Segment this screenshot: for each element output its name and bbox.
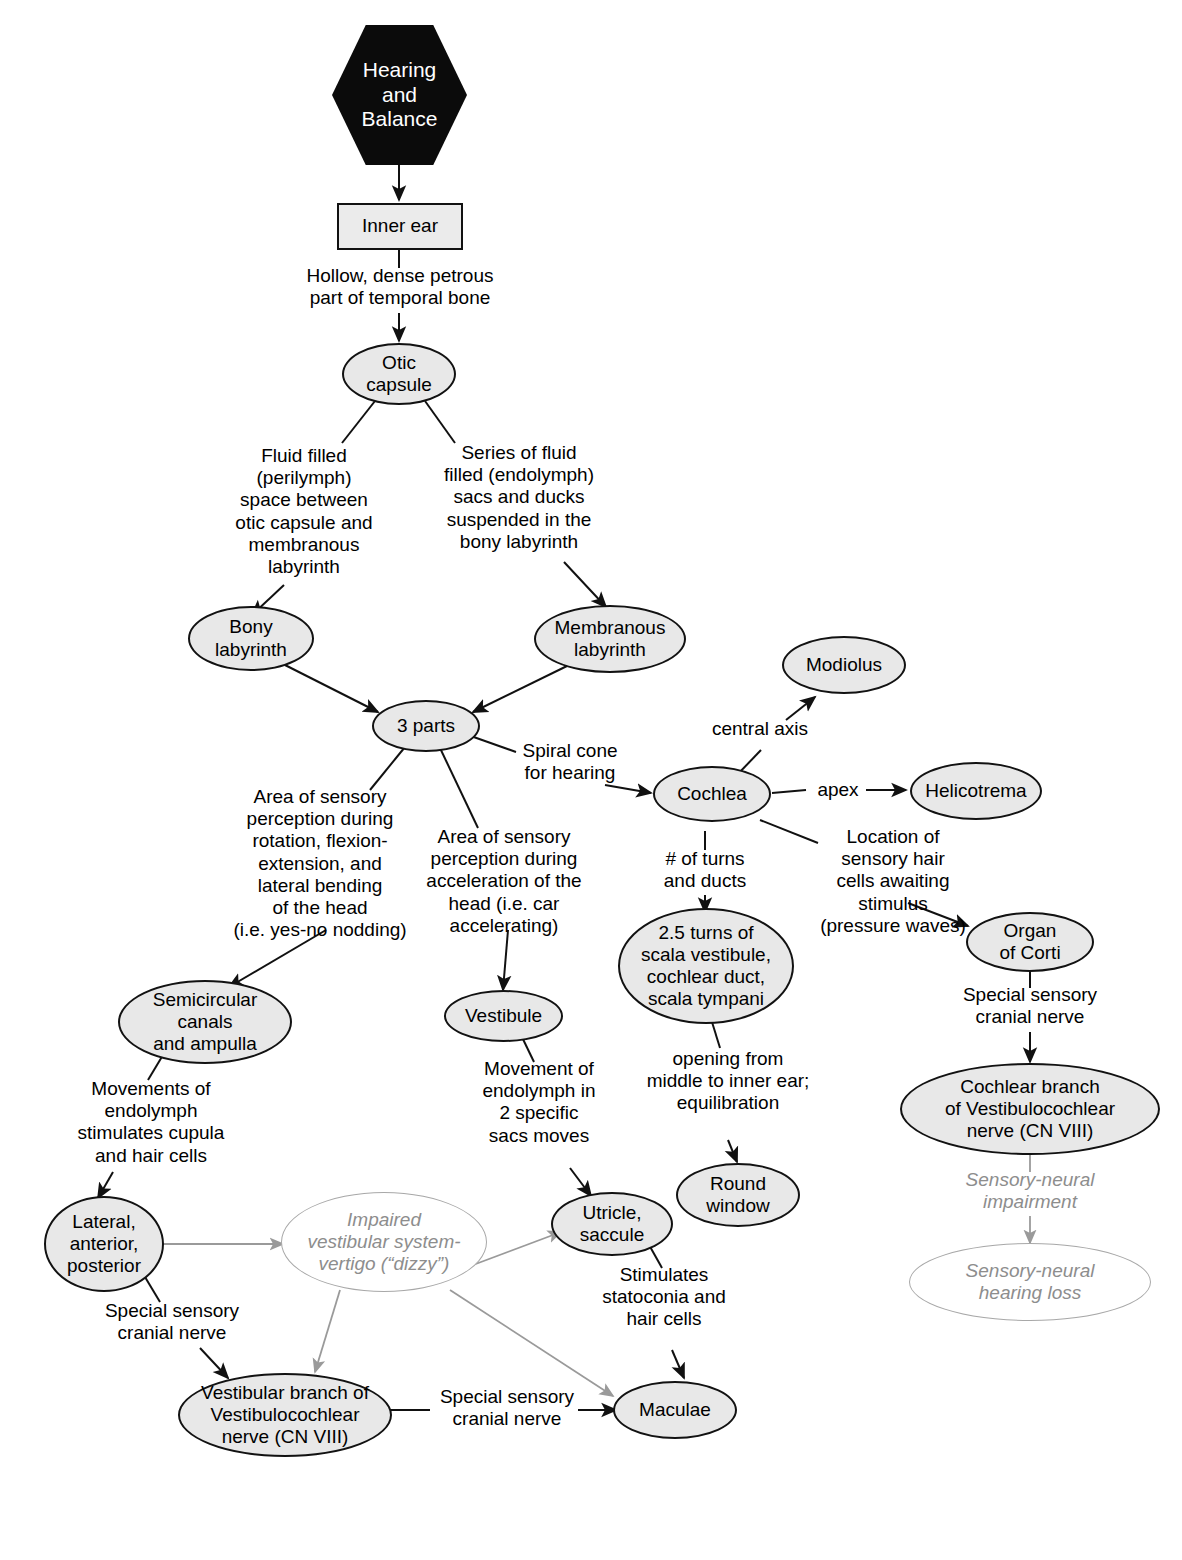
node-label: Bony labyrinth bbox=[190, 616, 312, 660]
node-lateral-anterior-posterior[interactable]: Lateral, anterior, posterior bbox=[44, 1196, 164, 1292]
node-3-parts[interactable]: 3 parts bbox=[372, 700, 480, 752]
edge-label-special-sensory-maculae: Special sensory cranial nerve bbox=[424, 1386, 590, 1430]
edge-label-opening-middle: opening from middle to inner ear; equili… bbox=[628, 1048, 828, 1115]
edge-label-central-axis: central axis bbox=[700, 718, 820, 740]
edge-label-movement-endolymph: Movement of endolymph in 2 specific sacs… bbox=[464, 1058, 614, 1147]
node-cochlea[interactable]: Cochlea bbox=[653, 766, 771, 822]
node-label: Modiolus bbox=[784, 654, 904, 676]
node-helicotrema[interactable]: Helicotrema bbox=[910, 762, 1042, 820]
node-inner-ear[interactable]: Inner ear bbox=[337, 203, 463, 250]
node-bony-labyrinth[interactable]: Bony labyrinth bbox=[188, 606, 314, 671]
node-vestibular-branch[interactable]: Vestibular branch of Vestibulocochlear n… bbox=[178, 1373, 392, 1457]
node-label: Maculae bbox=[615, 1399, 735, 1421]
edge-label-petrous: Hollow, dense petrous part of temporal b… bbox=[269, 265, 531, 309]
node-cochlear-branch[interactable]: Cochlear branch of Vestibulocochlear ner… bbox=[900, 1063, 1160, 1155]
node-round-window[interactable]: Round window bbox=[676, 1163, 800, 1227]
edge-label-sensory-neural-impairment: Sensory-neural impairment bbox=[942, 1169, 1118, 1213]
concept-map-canvas: Hearing and Balance Inner ear Otic capsu… bbox=[0, 0, 1182, 1560]
edge-label-special-sensory-lateral: Special sensory cranial nerve bbox=[84, 1300, 260, 1344]
node-label: Lateral, anterior, posterior bbox=[46, 1211, 162, 1277]
edge-label-perilymph: Fluid filled (perilymph) space between o… bbox=[207, 445, 401, 578]
node-label: Membranous labyrinth bbox=[536, 617, 684, 661]
edge-label-special-sensory-corti: Special sensory cranial nerve bbox=[942, 984, 1118, 1028]
edge-label-stimulates-statoconia: Stimulates statoconia and hair cells bbox=[576, 1264, 752, 1331]
node-label: Otic capsule bbox=[344, 352, 454, 396]
node-membranous-labyrinth[interactable]: Membranous labyrinth bbox=[534, 605, 686, 673]
node-label: Helicotrema bbox=[912, 780, 1040, 802]
node-semicircular-canals-and-ampulla[interactable]: Semicircular canals and ampulla bbox=[118, 980, 292, 1064]
edge-label-turns-and-ducts: # of turns and ducts bbox=[637, 848, 773, 892]
node-label: Hearing and Balance bbox=[332, 58, 467, 131]
node-label: Round window bbox=[678, 1173, 798, 1217]
node-sensory-neural-hearing-loss[interactable]: Sensory-neural hearing loss bbox=[909, 1243, 1151, 1321]
node-label: Cochlea bbox=[655, 783, 769, 805]
node-modiolus[interactable]: Modiolus bbox=[782, 636, 906, 694]
node-label: Vestibular branch of Vestibulocochlear n… bbox=[180, 1382, 390, 1448]
edge-label-spiral-cone: Spiral cone for hearing bbox=[510, 740, 630, 784]
node-utricle-saccule[interactable]: Utricle, saccule bbox=[551, 1192, 673, 1256]
node-label: Sensory-neural hearing loss bbox=[910, 1260, 1150, 1304]
node-label: Semicircular canals and ampulla bbox=[120, 989, 290, 1055]
node-hearing-and-balance[interactable]: Hearing and Balance bbox=[332, 25, 467, 165]
node-label: Cochlear branch of Vestibulocochlear ner… bbox=[902, 1076, 1158, 1142]
node-label: Inner ear bbox=[339, 215, 461, 237]
node-label: Utricle, saccule bbox=[553, 1202, 671, 1246]
node-organ-of-corti[interactable]: Organ of Corti bbox=[966, 912, 1094, 972]
node-2-5-turns[interactable]: 2.5 turns of scala vestibule, cochlear d… bbox=[618, 908, 794, 1024]
edge-label-endolymph-sacs: Series of fluid filled (endolymph) sacs … bbox=[419, 442, 619, 553]
edge-label-acceleration-area: Area of sensory perception during accele… bbox=[412, 826, 596, 937]
node-maculae[interactable]: Maculae bbox=[613, 1381, 737, 1439]
node-label: 3 parts bbox=[374, 715, 478, 737]
node-label: Vestibule bbox=[446, 1005, 561, 1027]
node-otic-capsule[interactable]: Otic capsule bbox=[342, 343, 456, 405]
edge-label-endolymph-movements: Movements of endolymph stimulates cupula… bbox=[44, 1078, 258, 1167]
node-label: Impaired vestibular system- vertigo (“di… bbox=[282, 1209, 486, 1275]
node-impaired-vestibular-system[interactable]: Impaired vestibular system- vertigo (“di… bbox=[281, 1192, 487, 1292]
node-label: Organ of Corti bbox=[968, 920, 1092, 964]
node-label: 2.5 turns of scala vestibule, cochlear d… bbox=[620, 922, 792, 1010]
edge-label-rotation-area: Area of sensory perception during rotati… bbox=[196, 786, 444, 942]
edge-label-apex: apex bbox=[810, 779, 866, 801]
node-vestibule[interactable]: Vestibule bbox=[444, 990, 563, 1042]
edge-label-hair-cells-location: Location of sensory hair cells awaiting … bbox=[810, 826, 976, 937]
